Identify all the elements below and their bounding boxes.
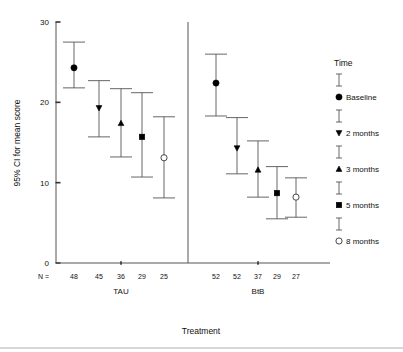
n-value-label: 52: [212, 273, 220, 280]
n-row-label: N =: [38, 273, 49, 280]
data-point-marker: [274, 190, 279, 195]
data-point-marker: [213, 80, 219, 86]
legend-marker-down-triangle: [336, 131, 342, 136]
data-point-marker: [234, 146, 240, 151]
n-value-label: 27: [292, 273, 300, 280]
chart-container: 0102030N =48453629255252372927TAUBtBTrea…: [0, 0, 403, 352]
group-label-tau: TAU: [113, 287, 129, 296]
y-axis-tick-label: 20: [40, 98, 49, 107]
data-point-marker: [96, 106, 102, 111]
legend-label-baseline: Baseline: [346, 93, 377, 102]
legend-marker-open-circle: [336, 238, 342, 244]
y-axis-tick-label: 10: [40, 179, 49, 188]
legend-marker-filled-circle: [336, 94, 342, 100]
n-value-label: 29: [138, 273, 146, 280]
y-axis-title: 95% CI for mean score: [12, 99, 22, 186]
legend-label-2-months: 2 months: [346, 129, 379, 138]
y-axis-tick-label: 0: [45, 259, 50, 268]
data-point-marker: [255, 167, 261, 172]
n-value-label: 25: [160, 273, 168, 280]
y-axis-tick-label: 30: [40, 18, 49, 27]
legend-label-8-months: 8 months: [346, 237, 379, 246]
legend-title: Time: [334, 58, 353, 68]
data-point-marker: [293, 194, 299, 200]
n-value-label: 48: [70, 273, 78, 280]
x-axis-title: Treatment: [182, 326, 221, 336]
legend-label-3-months: 3 months: [346, 165, 379, 174]
n-value-label: 52: [233, 273, 241, 280]
group-label-btb: BtB: [252, 287, 265, 296]
data-point-marker: [161, 155, 167, 161]
data-point-marker: [139, 134, 144, 139]
data-point-marker: [71, 65, 77, 71]
n-value-label: 36: [117, 273, 125, 280]
n-value-label: 37: [254, 273, 262, 280]
ci-error-bar-chart: 0102030N =48453629255252372927TAUBtBTrea…: [0, 0, 403, 352]
legend-marker-filled-square: [336, 202, 341, 207]
data-point-marker: [118, 120, 124, 125]
n-value-label: 29: [273, 273, 281, 280]
n-value-label: 45: [95, 273, 103, 280]
legend-marker-up-triangle: [336, 166, 342, 171]
legend-label-5-months: 5 months: [346, 201, 379, 210]
